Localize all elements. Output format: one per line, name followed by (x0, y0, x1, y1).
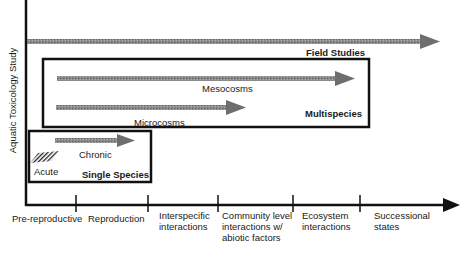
mesocosms-label: Mesocosms (202, 83, 253, 94)
y-axis-label: Aquatic Toxicology Study (7, 31, 18, 171)
x-category-reproduction: Reproduction (88, 213, 145, 224)
field-studies-label: Field Studies (306, 47, 365, 58)
multispecies-label: Multispecies (305, 108, 362, 119)
x-category-interspecific: Interspecific interactions (159, 210, 210, 232)
single-species-label: Single Species (82, 169, 149, 180)
x-category-ecosystem: Ecosystem interactions (302, 210, 351, 232)
microcosms-label: Microcosms (134, 117, 185, 128)
chronic-label: Chronic (79, 149, 112, 160)
microcosms-arrow (56, 100, 246, 115)
field-studies-arrow (27, 34, 440, 49)
acute-label: Acute (34, 166, 58, 177)
x-axis-arrowhead-icon (443, 198, 460, 212)
x-category-successional: Successional states (374, 210, 430, 232)
chronic-arrow (55, 134, 135, 147)
acute-hatch-icon (30, 151, 59, 163)
x-category-community: Community level interactions w/ abiotic … (222, 210, 292, 243)
x-category-pre-reproductive: Pre-reproductive (12, 213, 82, 224)
